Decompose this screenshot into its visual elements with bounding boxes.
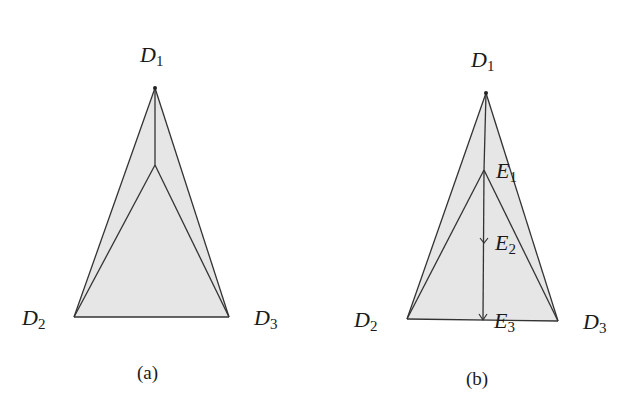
label-a-d3: D3: [253, 305, 277, 332]
label-b-d2: D2: [353, 307, 377, 334]
caption-a: (a): [137, 362, 158, 384]
label-a-d1: D1: [139, 42, 163, 69]
panel-a: D1 D2 D3 (a): [21, 42, 277, 384]
vertex-d1-dot: [153, 86, 157, 90]
panel-b: D1 E1 E2 E3 D2 D3 (b): [353, 47, 606, 390]
label-a-d2: D2: [21, 305, 45, 332]
label-b-e1: E1: [495, 158, 517, 185]
panel-b-triangle-fill: [407, 93, 558, 321]
caption-b: (b): [466, 368, 488, 390]
panel-a-triangle-fill: [74, 88, 229, 317]
label-b-d3: D3: [582, 309, 606, 336]
vertex-d1-dot: [484, 91, 488, 95]
label-b-d1: D1: [470, 47, 494, 74]
figure-canvas: D1 D2 D3 (a) D1 E1 E2 E3 D2 D3 (b): [0, 0, 631, 410]
